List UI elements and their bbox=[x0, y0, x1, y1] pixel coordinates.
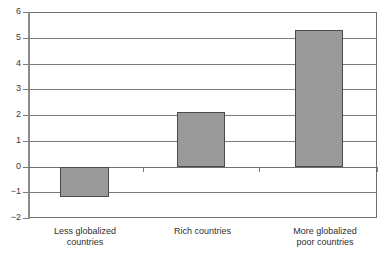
y-axis-tick bbox=[23, 218, 28, 219]
bar-chart: 6543210−1−2 Less globalized countriesRic… bbox=[0, 0, 389, 261]
y-axis-tick bbox=[23, 192, 28, 193]
category-label: More globalized poor countries bbox=[265, 226, 385, 248]
y-axis-tick bbox=[23, 167, 28, 168]
y-axis-tick bbox=[23, 89, 28, 90]
y-axis-tick-label: 5 bbox=[0, 33, 21, 42]
y-axis-tick-label: 1 bbox=[0, 136, 21, 145]
y-axis-tick bbox=[23, 115, 28, 116]
bar bbox=[60, 167, 109, 197]
category-label: Less globalized countries bbox=[30, 226, 140, 248]
y-axis-tick bbox=[23, 141, 28, 142]
y-axis-tick-label: 4 bbox=[0, 59, 21, 68]
bar bbox=[295, 30, 343, 167]
y-axis-tick bbox=[23, 38, 28, 39]
y-axis-tick-label: 0 bbox=[0, 162, 21, 171]
y-axis-tick-label: −1 bbox=[0, 187, 21, 196]
y-axis-tick bbox=[23, 64, 28, 65]
category-tick bbox=[259, 167, 260, 172]
category-tick bbox=[143, 167, 144, 172]
y-axis-tick-label: −2 bbox=[0, 213, 21, 222]
y-axis-tick-label: 3 bbox=[0, 84, 21, 93]
y-axis-tick-label: 2 bbox=[0, 110, 21, 119]
category-tick bbox=[377, 167, 378, 172]
y-axis-tick-label: 6 bbox=[0, 7, 21, 16]
bar bbox=[177, 112, 225, 167]
category-label: Rich countries bbox=[150, 226, 255, 237]
y-axis-tick bbox=[23, 12, 28, 13]
